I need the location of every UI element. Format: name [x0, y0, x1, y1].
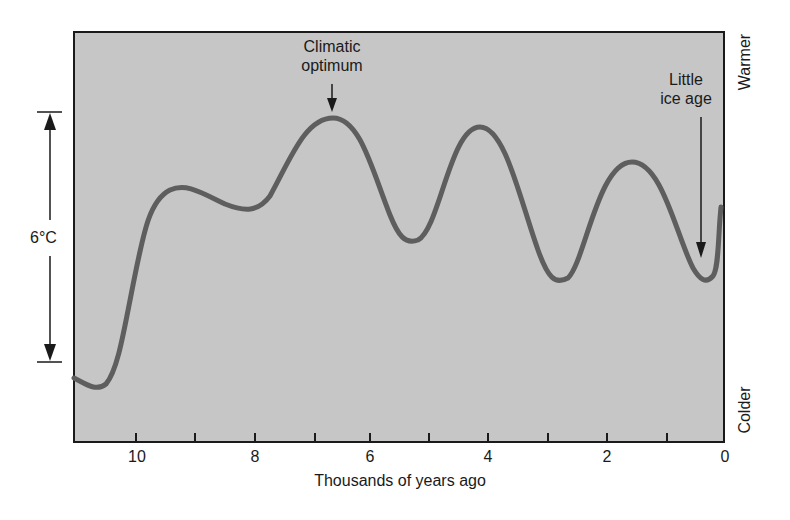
x-tick-label: 10: [117, 448, 157, 466]
warmer-label: Warmer: [736, 32, 754, 92]
x-tick-label: 2: [587, 448, 627, 466]
scale-label: 6°C: [30, 228, 57, 247]
x-axis-title: Thousands of years ago: [290, 471, 510, 490]
x-tick-label: 8: [235, 448, 275, 466]
x-tick-label: 4: [468, 448, 508, 466]
annotation-line-2: optimum: [282, 56, 382, 75]
annotation-climatic-optimum: Climatic optimum: [282, 37, 382, 75]
annotation-line-1: Climatic: [282, 37, 382, 56]
colder-label: Colder: [736, 384, 754, 436]
x-tick-label: 6: [350, 448, 390, 466]
annotation-line-1: Little: [646, 70, 726, 89]
annotation-line-2: ice age: [646, 89, 726, 108]
annotation-little-ice-age: Little ice age: [646, 70, 726, 108]
x-tick-label: 0: [705, 448, 745, 466]
